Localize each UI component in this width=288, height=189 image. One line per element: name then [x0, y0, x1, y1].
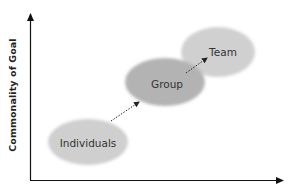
y-axis-label: Commonality of Goal	[7, 38, 18, 151]
arrow-individuals-to-group	[111, 102, 139, 121]
individuals-label: Individuals	[60, 137, 117, 149]
team-label: Team	[209, 46, 237, 58]
diagram-canvas: Commonality of Goal Individuals Group Te…	[0, 0, 288, 189]
diagram-svg	[0, 0, 288, 189]
group-label: Group	[151, 78, 183, 90]
